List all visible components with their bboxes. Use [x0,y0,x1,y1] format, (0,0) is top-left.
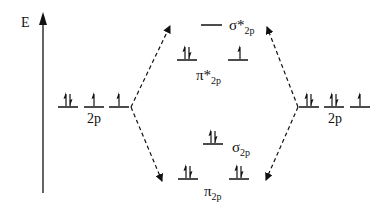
energy-axis-label: E [21,15,30,30]
sigma-star-subscript: 2p [245,25,255,36]
left-2p-label: 2p [87,111,101,126]
electron-pair-icon [235,164,244,178]
right-2p-label: 2p [328,111,342,126]
electron-pair-icon [305,92,314,106]
mo-diagram: E 2p [0,0,386,209]
pi-star-2p: π*2p [177,45,248,86]
energy-axis: E [21,12,47,193]
pi-subscript: 2p [212,191,222,202]
sigma-star-2p: σ*2p [201,17,255,36]
electron-up-icon [358,92,361,106]
correlation-lines [131,26,298,181]
pi-star-subscript: 2p [211,75,221,86]
electron-up-icon [238,45,241,59]
axis-arrow-icon [39,12,47,25]
svg-text:σ*2p: σ*2p [229,17,255,36]
sigma-star-symbol: σ* [229,17,245,33]
electron-up-icon [92,92,95,106]
electron-pair-icon [64,92,73,106]
sigma-symbol: σ [232,139,240,155]
dashed-arrow-icon [131,107,162,181]
electron-pair-icon [183,45,192,59]
electron-pair-icon [330,92,339,106]
electron-pair-icon [209,129,218,143]
dashed-arrow-icon [267,27,298,107]
sigma-2p: σ2p [203,129,250,158]
svg-text:π2p: π2p [204,183,222,202]
dashed-arrow-icon [131,26,170,107]
pi-2p: π2p [178,164,249,202]
pi-star-symbol: π* [196,67,211,83]
svg-text:σ2p: σ2p [232,139,250,158]
dashed-arrow-icon [266,107,298,180]
svg-text:π*2p: π*2p [196,67,221,86]
right-atom-2p: 2p [299,92,370,126]
sigma-subscript: 2p [240,147,250,158]
left-atom-2p: 2p [58,92,129,126]
electron-pair-icon [184,164,193,178]
electron-up-icon [117,92,120,106]
